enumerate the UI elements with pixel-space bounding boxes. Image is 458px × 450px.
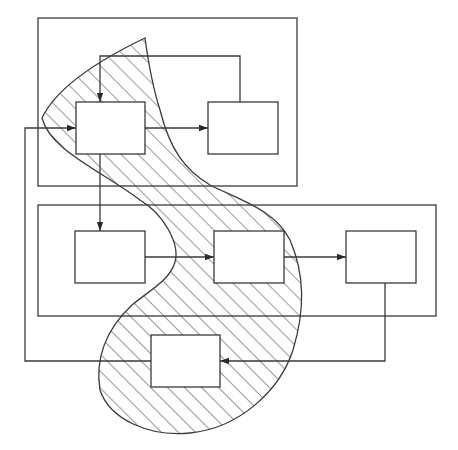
diagram-canvas <box>0 0 458 450</box>
box-c <box>75 231 145 283</box>
box-a <box>76 102 145 154</box>
box-d <box>214 231 284 283</box>
box-b <box>208 102 278 154</box>
box-f <box>151 335 220 387</box>
box-e <box>346 231 416 283</box>
